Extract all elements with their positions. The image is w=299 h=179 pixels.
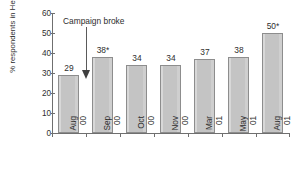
annotation-label-campaign-broke: Campaign broke (63, 16, 124, 26)
y-tick (51, 113, 55, 114)
y-tick-label: 50 (27, 30, 51, 38)
y-tick (51, 93, 55, 94)
y-tick-label: 0 (27, 130, 51, 138)
x-category-line-2: 01 (283, 116, 293, 158)
x-category-line-1: Sep (103, 116, 113, 158)
x-category-line-2: 00 (147, 116, 157, 158)
x-category-line-2: 00 (181, 116, 191, 158)
y-tick-label: 30 (27, 70, 51, 78)
y-tick (51, 33, 55, 34)
x-category-line-1: Mar (205, 116, 215, 158)
x-category-label-mar-01: Mar 01 (194, 137, 216, 179)
y-tick (51, 73, 55, 74)
y-tick (51, 13, 55, 14)
x-tick (52, 133, 53, 137)
y-tick-label: 10 (27, 110, 51, 118)
x-category-line-1: May (239, 116, 249, 158)
y-tick-label: 20 (27, 90, 51, 98)
bar-chart: % respondents in Heartland 0 10 20 30 40… (0, 0, 299, 179)
bar-value-label: 34 (119, 54, 155, 62)
x-category-line-2: 01 (249, 116, 259, 158)
bar-value-label: 50* (255, 22, 291, 30)
y-tick-label: 60 (27, 10, 51, 18)
y-axis-title: % respondents in Heartland (8, 0, 17, 85)
x-category-line-1: Aug (273, 116, 283, 158)
x-category-line-1: Aug (69, 116, 79, 158)
x-category-label-oct-00: Oct 00 (126, 137, 148, 179)
x-category-line-2: 01 (215, 116, 225, 158)
x-category-label-may-01: May 01 (228, 137, 250, 179)
bar-value-label: 37 (187, 48, 223, 56)
y-tick (51, 53, 55, 54)
x-category-label-sep-00: Sep 00 (92, 137, 114, 179)
annotation-arrow-head-icon (82, 70, 90, 79)
annotation-arrow-line (86, 27, 87, 72)
bar-value-label: 34 (153, 54, 189, 62)
bar-value-label: 38 (221, 46, 257, 54)
y-tick-label: 40 (27, 50, 51, 58)
x-category-label-nov-00: Nov 00 (160, 137, 182, 179)
x-category-label-aug-01: Aug 01 (262, 137, 284, 179)
x-category-line-2: 00 (113, 116, 123, 158)
x-category-line-2: 00 (79, 116, 89, 158)
bar-value-label: 38* (85, 46, 121, 54)
x-category-line-1: Nov (171, 116, 181, 158)
x-category-line-1: Oct (137, 116, 147, 158)
x-category-label-aug-00: Aug 00 (58, 137, 80, 179)
